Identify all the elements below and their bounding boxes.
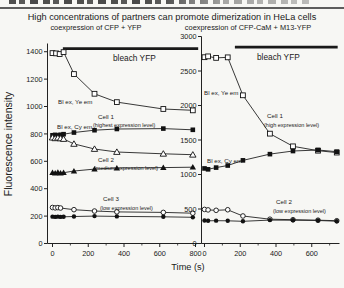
plot-annotation: (low expression level) [100,205,153,211]
plot-annotation: (medium expression level) [94,165,158,171]
plot-annotation: (high expression level) [264,122,319,128]
y-tick-label: 0 [192,239,196,248]
circle-filled-marker [241,219,245,223]
square-filled-marker [92,128,97,133]
square-open-marker [225,55,230,60]
axis-lines [48,44,200,244]
square-open-marker [268,131,273,136]
figure-title: High concentrations of partners can prom… [0,12,344,22]
y-tick-label: 3000 [180,32,196,41]
square-open-marker [61,50,66,55]
plot-annotation: (low expression level) [273,208,326,214]
square-open-marker [72,72,77,77]
plot-annotation: Cell 2 [98,156,114,163]
y-tick-label: 200 [30,212,42,221]
square-open-marker [291,144,296,149]
circle-filled-marker [61,215,65,219]
circle-filled-marker [335,219,339,223]
figure-page: High concentrations of partners can prom… [0,0,344,288]
square-filled-marker [268,152,273,157]
x-tick-label: 0 [202,249,206,258]
y-tick-label: 1000 [180,170,196,179]
plot-annotation: Bl ex, Ye em [204,89,238,96]
x-tick-label: 600 [154,249,166,258]
square-filled-marker [161,126,166,131]
y-tick-label: 1200 [26,75,42,84]
square-open-marker [114,100,119,105]
right-panel-subtitle: coexpression of CFP-CaM + M13-YFP [172,23,324,32]
square-open-marker [214,55,219,60]
series-square-open [202,54,339,155]
x-tick-label: 600 [306,249,318,258]
plot-annotation: Bl ex, Ye em [58,98,92,105]
square-filled-marker [191,128,196,133]
plot-annotation: Bl ex, Cy em [207,157,242,164]
circle-filled-marker [161,215,165,219]
y-tick-label: 1400 [26,47,42,56]
y-tick-label: 400 [30,184,42,193]
square-open-marker [206,54,211,59]
circle-open-marker [206,208,211,213]
series-circle-filled [50,214,195,220]
x-tick-label: 200 [234,249,246,258]
plot-annotation: bleach YFP [113,53,156,63]
top-divider [0,7,344,9]
square-filled-marker [291,149,296,154]
circle-open-marker [241,214,246,219]
square-open-marker [161,107,166,112]
plot-annotation: bleach YFP [257,52,300,62]
circle-filled-marker [316,218,320,222]
y-tick-label: 0 [38,239,42,248]
y-tick-label: 800 [30,130,42,139]
circle-open-marker [92,209,97,214]
plot-annotation: Cell 1 [98,113,114,120]
circle-open-marker [214,208,219,213]
square-open-marker [241,93,246,98]
circle-filled-marker [291,218,295,222]
fluorescence-plots-svg: 02004006008000200400600800100012001400bl… [0,32,344,288]
series-line [205,56,337,152]
circle-open-marker [72,207,77,212]
x-tick-label: 800 [189,249,201,258]
clipped-text-remnant [9,0,309,4]
x-tick-label: 400 [118,249,130,258]
circle-filled-marker [268,218,272,222]
circle-filled-marker [92,214,96,218]
plot-annotation: Cell 1 [267,112,283,119]
y-tick-label: 500 [184,205,196,214]
y-tick-label: 1000 [26,102,42,111]
circle-filled-marker [72,214,76,218]
plot-annotation: (highest expression level) [93,122,156,128]
circle-filled-marker [191,215,195,219]
panel-cfp-plus-yfp: 02004006008000200400600800100012001400bl… [26,44,201,258]
x-tick-label: 0 [50,249,54,258]
square-filled-marker [334,149,339,154]
circle-filled-marker [206,219,210,223]
y-tick-label: 600 [30,157,42,166]
plot-annotation: Cell 2 [276,198,292,205]
circle-open-marker [58,206,63,211]
circle-open-marker [161,210,166,215]
x-tick-label: 400 [270,249,282,258]
y-tick-label: 2000 [180,101,196,110]
circle-filled-marker [115,214,119,218]
plot-annotation: Bl ex, Cy em [57,123,92,130]
y-tick-label: 2500 [180,67,196,76]
circle-filled-marker [226,219,230,223]
square-filled-marker [316,148,321,153]
series-triangle-open [49,135,196,158]
square-filled-marker [214,165,219,170]
triangle-open-marker [71,141,77,147]
circle-filled-marker [214,218,218,222]
plot-annotation: Cell 3 [103,195,119,202]
x-tick-label: 200 [82,249,94,258]
square-filled-marker [206,167,211,172]
left-panel-subtitle: coexpression of CFP + YFP [20,23,172,32]
panel-cfp-cam-m13-yfp: 0200400600050010001500200025003000bleach… [180,32,339,257]
y-tick-label: 1500 [180,136,196,145]
circle-open-marker [225,207,230,212]
square-open-marker [92,91,97,96]
square-filled-marker [72,130,77,135]
